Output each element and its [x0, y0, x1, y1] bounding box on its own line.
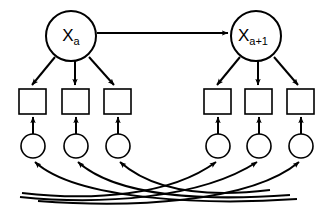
state-label-a-base: X [62, 26, 73, 45]
state-label-a1-base: X [238, 26, 249, 45]
feedback-arc-group [20, 162, 299, 204]
place-6 [289, 134, 313, 158]
edge-a-t1 [32, 57, 55, 85]
transition-6 [287, 89, 314, 114]
diagram-canvas: Xa Xa+1 [0, 0, 330, 208]
place-1 [21, 134, 45, 158]
place-to-transition-group [33, 117, 301, 134]
place-2 [64, 134, 88, 158]
place-4 [206, 134, 230, 158]
transition-2 [62, 89, 89, 114]
diagram-svg: Xa Xa+1 [0, 0, 330, 208]
edge-a-t3 [89, 57, 114, 85]
place-circle-group [21, 134, 313, 158]
transition-1 [19, 89, 46, 114]
transition-4 [204, 89, 231, 114]
transition-3 [104, 89, 131, 114]
edge-a1-t6 [274, 57, 298, 85]
transition-box-group [19, 89, 314, 114]
state-label-a1-subscript: a+1 [249, 35, 268, 47]
state-node-a: Xa [46, 11, 96, 61]
transition-5 [245, 89, 272, 114]
place-3 [106, 134, 130, 158]
state-node-a-plus-1: Xa+1 [231, 11, 281, 61]
edge-a1-t4 [217, 57, 240, 85]
state-label-a-subscript: a [74, 35, 81, 47]
place-5 [247, 134, 271, 158]
